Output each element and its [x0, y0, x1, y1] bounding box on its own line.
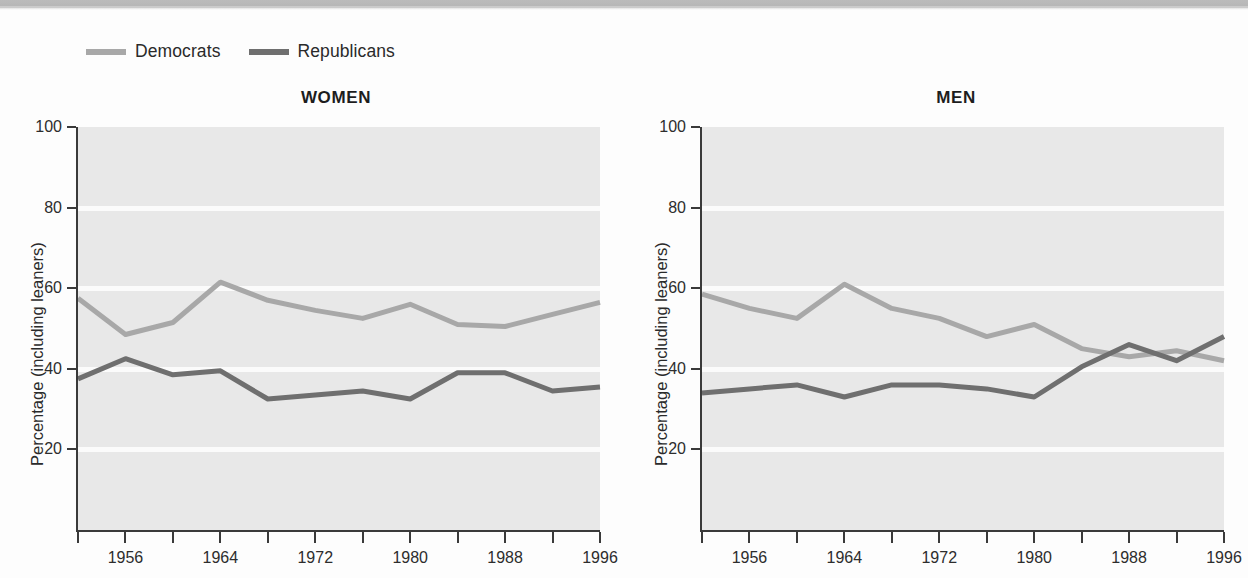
plot-women: 20406080100195619641972198019881996: [0, 0, 624, 578]
panel-women: WOMEN Percentage (including leaners) 204…: [0, 0, 624, 578]
x-tick: [314, 532, 316, 543]
x-tick: [843, 532, 845, 543]
y-tick-label: 80: [632, 199, 686, 217]
x-tick: [267, 532, 269, 543]
x-tick: [599, 532, 601, 543]
x-tick: [1081, 532, 1083, 543]
y-tick: [691, 368, 700, 370]
y-tick-label: 60: [8, 279, 62, 297]
x-tick-label: 1964: [827, 549, 863, 567]
x-tick-label: 1972: [921, 549, 957, 567]
x-tick: [748, 532, 750, 543]
x-axis-line: [76, 530, 600, 532]
y-tick-label: 20: [8, 440, 62, 458]
x-tick: [1128, 532, 1130, 543]
y-tick: [67, 126, 76, 128]
x-tick: [457, 532, 459, 543]
x-tick: [219, 532, 221, 543]
x-tick: [796, 532, 798, 543]
x-tick: [409, 532, 411, 543]
chart-page: Democrats Republicans WOMEN Percentage (…: [0, 0, 1248, 578]
x-tick: [701, 532, 703, 543]
x-tick-label: 1956: [108, 549, 144, 567]
x-tick: [1033, 532, 1035, 543]
y-tick: [691, 207, 700, 209]
series-layer: [0, 0, 624, 578]
x-tick-label: 1996: [1206, 549, 1242, 567]
y-tick: [67, 287, 76, 289]
x-tick: [124, 532, 126, 543]
x-tick: [938, 532, 940, 543]
x-axis-line: [700, 530, 1224, 532]
x-tick: [172, 532, 174, 543]
series-layer: [624, 0, 1248, 578]
x-tick: [986, 532, 988, 543]
x-tick-label: 1964: [203, 549, 239, 567]
y-axis-line: [76, 127, 78, 532]
series-line-republicans: [702, 337, 1224, 397]
x-tick-label: 1956: [732, 549, 768, 567]
x-tick: [1223, 532, 1225, 543]
x-tick: [362, 532, 364, 543]
series-line-republicans: [78, 359, 600, 399]
y-tick-label: 80: [8, 199, 62, 217]
y-tick-label: 20: [632, 440, 686, 458]
plot-men: 20406080100195619641972198019881996: [624, 0, 1248, 578]
x-tick-label: 1972: [297, 549, 333, 567]
x-tick: [77, 532, 79, 543]
x-tick-label: 1980: [392, 549, 428, 567]
y-tick-label: 100: [8, 118, 62, 136]
x-tick: [891, 532, 893, 543]
y-tick-label: 60: [632, 279, 686, 297]
y-axis-line: [700, 127, 702, 532]
y-tick: [67, 207, 76, 209]
y-tick: [691, 448, 700, 450]
y-tick: [67, 448, 76, 450]
series-line-democrats: [78, 282, 600, 334]
y-tick-label: 40: [632, 360, 686, 378]
x-tick: [1176, 532, 1178, 543]
y-tick-label: 100: [632, 118, 686, 136]
x-tick: [552, 532, 554, 543]
panel-men: MEN Percentage (including leaners) 20406…: [624, 0, 1248, 578]
y-tick: [67, 368, 76, 370]
x-tick-label: 1996: [582, 549, 618, 567]
x-tick: [504, 532, 506, 543]
x-tick-label: 1988: [1111, 549, 1147, 567]
x-tick-label: 1980: [1016, 549, 1052, 567]
y-tick: [691, 126, 700, 128]
y-tick-label: 40: [8, 360, 62, 378]
y-tick: [691, 287, 700, 289]
x-tick-label: 1988: [487, 549, 523, 567]
